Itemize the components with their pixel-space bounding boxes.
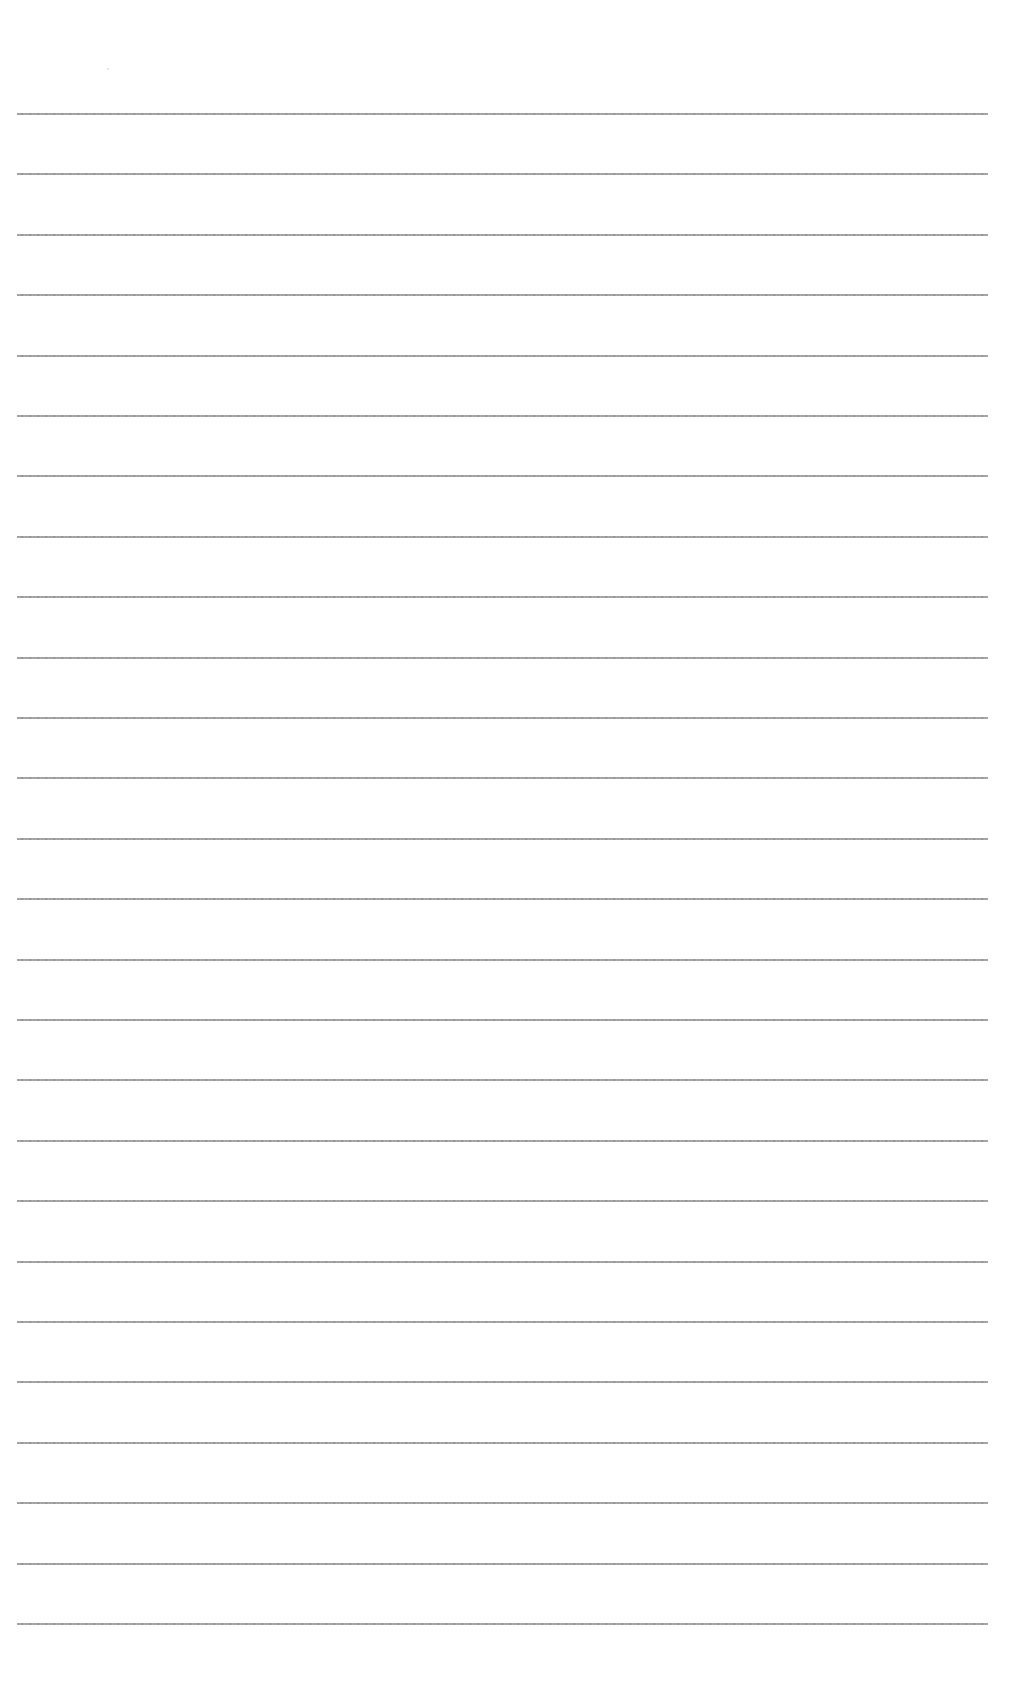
ruled-line	[17, 959, 988, 961]
ruled-line	[17, 113, 988, 115]
ruled-line	[17, 1442, 988, 1444]
ruled-line	[17, 415, 988, 417]
ruled-line	[17, 596, 988, 598]
ruled-line	[17, 536, 988, 538]
ruled-line	[17, 898, 988, 900]
ruled-line	[17, 1563, 988, 1565]
lined-paper-page	[0, 0, 1025, 1707]
ruled-line	[17, 1381, 988, 1383]
ruled-line	[17, 777, 988, 779]
ruled-line	[17, 1261, 988, 1263]
scan-speck	[107, 68, 109, 70]
ruled-line	[17, 294, 988, 296]
ruled-line	[17, 355, 988, 357]
ruled-line	[17, 1623, 988, 1625]
ruled-line	[17, 475, 988, 477]
ruled-line	[17, 173, 988, 175]
ruled-line	[17, 838, 988, 840]
ruled-line	[17, 1140, 988, 1142]
ruled-line	[17, 1019, 988, 1021]
ruled-line	[17, 1321, 988, 1323]
ruled-line	[17, 1502, 988, 1504]
ruled-line	[17, 717, 988, 719]
ruled-line	[17, 657, 988, 659]
ruled-line	[17, 1079, 988, 1081]
ruled-line	[17, 234, 988, 236]
ruled-line	[17, 1200, 988, 1202]
